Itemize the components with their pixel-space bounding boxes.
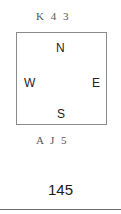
page-bottom-divider (0, 209, 121, 210)
compass-north-label: N (56, 42, 65, 54)
compass-table-box: N W E S (16, 32, 107, 125)
north-hand-cards: K 4 3 (36, 10, 70, 22)
south-hand-cards: A J 5 (36, 134, 69, 146)
compass-west-label: W (24, 77, 35, 89)
compass-south-label: S (57, 108, 65, 120)
compass-east-label: E (92, 77, 100, 89)
page-number: 145 (48, 182, 73, 197)
